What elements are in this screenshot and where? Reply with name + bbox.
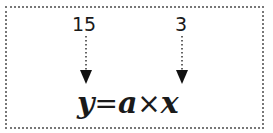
equals-sign: = bbox=[94, 87, 117, 120]
arrow-15-to-y bbox=[80, 36, 92, 84]
var-a: a bbox=[118, 85, 137, 120]
var-y: y bbox=[77, 85, 94, 120]
arrow-3-to-x bbox=[176, 36, 188, 84]
equation: y=a×x bbox=[77, 88, 179, 118]
times-sign: × bbox=[137, 87, 160, 120]
var-x: x bbox=[161, 85, 179, 120]
